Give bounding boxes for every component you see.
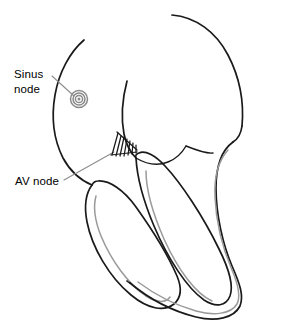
- right-atrium-outline: [172, 15, 242, 126]
- right-atrium-lower-outline: [233, 126, 242, 142]
- cardiac-conduction-diagram: Sinus node AV node: [0, 0, 288, 330]
- sinus-node-label: Sinus node: [14, 67, 43, 96]
- left-atrium-outline: [53, 40, 92, 185]
- av-node-leader-line: [64, 152, 114, 180]
- sinus-node-spiral-icon: [71, 91, 88, 108]
- av-node-label: AV node: [15, 174, 59, 189]
- right-ventricle-free-wall: [186, 146, 213, 153]
- heart-anatomy-illustration: [0, 0, 288, 330]
- ventricular-outer-wall: [130, 142, 242, 319]
